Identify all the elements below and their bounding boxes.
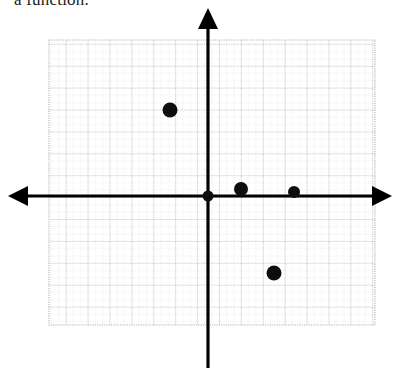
- x-axis-left-arrow-icon: [8, 186, 28, 206]
- data-point-c: [234, 182, 248, 196]
- screenshot-root: a function.: [0, 0, 398, 372]
- data-point-e: [267, 266, 282, 281]
- grid-rect: [49, 40, 375, 325]
- grid-layer: [49, 40, 375, 325]
- data-point-a: [163, 103, 178, 118]
- coordinate-plane-graph: [0, 0, 398, 372]
- graph-svg: [0, 0, 398, 372]
- data-point-d: [288, 186, 300, 198]
- x-axis-right-arrow-icon: [372, 186, 392, 206]
- y-axis-up-arrow-icon: [198, 8, 218, 29]
- data-point-b: [203, 191, 214, 202]
